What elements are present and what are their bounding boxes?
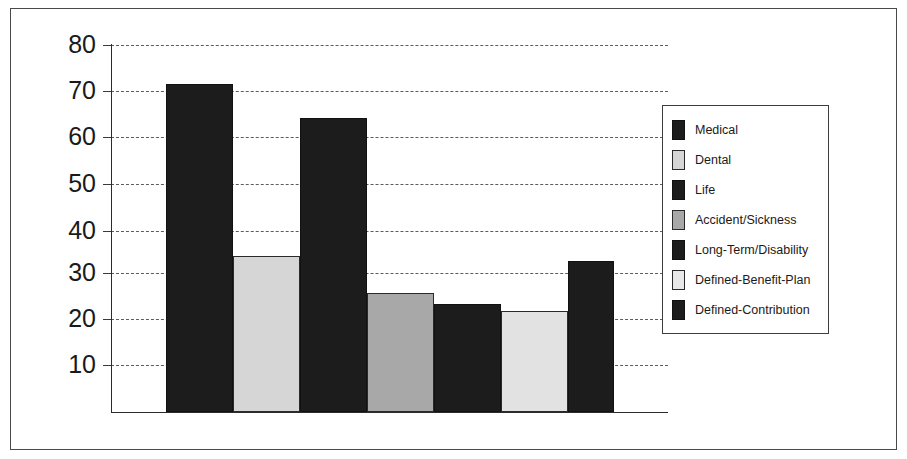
- gridline-80: [111, 45, 668, 46]
- legend-item-long-term-disability: Long-Term/Disability: [663, 235, 828, 265]
- bar-accident-sickness: [367, 293, 434, 412]
- bar-medical: [166, 84, 233, 412]
- ytick-label-20: 20: [50, 306, 96, 331]
- plot-area: 80 70 60 50 40 30 20 10 Medical Dental: [0, 0, 907, 459]
- chart-legend: Medical Dental Life Accident/Sickness Lo…: [662, 105, 829, 334]
- bar-dental: [233, 256, 300, 412]
- legend-label-defined-contribution: Defined-Contribution: [695, 303, 810, 317]
- legend-item-accident-sickness: Accident/Sickness: [663, 205, 828, 235]
- ytick-label-40: 40: [50, 218, 96, 243]
- ytick-label-60: 60: [50, 124, 96, 149]
- ytick-label-10: 10: [50, 352, 96, 377]
- ytick-label-50: 50: [50, 171, 96, 196]
- bar-life: [300, 118, 367, 412]
- chart-figure: 80 70 60 50 40 30 20 10 Medical Dental: [0, 0, 907, 459]
- bar-defined-benefit-plan: [501, 311, 568, 412]
- legend-swatch-icon-long-term-disability: [672, 240, 685, 260]
- bar-long-term-disability: [434, 304, 501, 412]
- legend-swatch-icon-accident-sickness: [672, 210, 685, 230]
- y-axis-line: [111, 44, 112, 413]
- legend-swatch-icon-defined-benefit-plan: [672, 270, 685, 290]
- legend-label-long-term-disability: Long-Term/Disability: [695, 243, 808, 257]
- legend-swatch-icon-defined-contribution: [672, 300, 685, 320]
- legend-label-accident-sickness: Accident/Sickness: [695, 213, 796, 227]
- legend-label-medical: Medical: [695, 123, 738, 137]
- legend-swatch-icon-life: [672, 180, 685, 200]
- ytick-label-70: 70: [50, 78, 96, 103]
- legend-item-medical: Medical: [663, 115, 828, 145]
- legend-item-life: Life: [663, 175, 828, 205]
- legend-label-defined-benefit-plan: Defined-Benefit-Plan: [695, 273, 810, 287]
- ytick-label-30: 30: [50, 260, 96, 285]
- legend-item-defined-contribution: Defined-Contribution: [663, 295, 828, 325]
- legend-label-dental: Dental: [695, 153, 731, 167]
- legend-label-life: Life: [695, 183, 715, 197]
- legend-item-dental: Dental: [663, 145, 828, 175]
- legend-swatch-icon-medical: [672, 120, 685, 140]
- legend-item-defined-benefit-plan: Defined-Benefit-Plan: [663, 265, 828, 295]
- ytick-label-80: 80: [50, 32, 96, 57]
- x-axis-line: [111, 412, 668, 413]
- legend-swatch-icon-dental: [672, 150, 685, 170]
- bar-defined-contribution: [568, 261, 614, 412]
